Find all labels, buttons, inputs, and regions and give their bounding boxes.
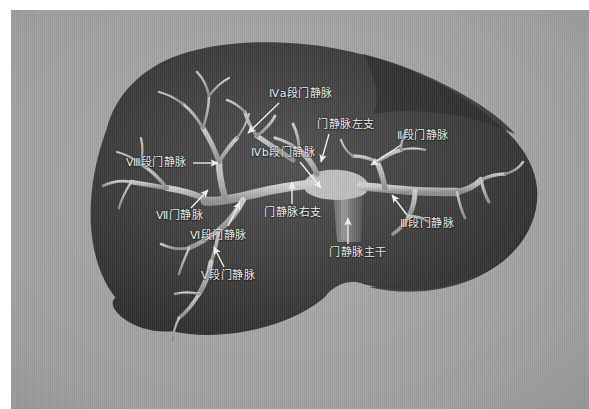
arrow-left-branch <box>321 134 329 162</box>
arrow-seg7 <box>191 190 208 208</box>
label-left-branch: 门静脉左支 <box>317 118 375 131</box>
label-seg5: Ⅴ段门静脉 <box>201 269 255 282</box>
label-seg7: Ⅶ门静脉 <box>156 209 203 222</box>
label-iva: Ⅳa段门静脉 <box>269 87 333 100</box>
label-right-branch: 门静脉右支 <box>264 206 322 219</box>
illustration-stage: Ⅳa段门静脉门静脉左支Ⅱ段门静脉Ⅳb段门静脉Ⅷ段门静脉Ⅶ门静脉门静脉右支Ⅵ段门静… <box>11 10 589 409</box>
label-seg8: Ⅷ段门静脉 <box>126 156 187 169</box>
arrow-seg6 <box>228 202 240 226</box>
label-main-trunk: 门静脉主干 <box>329 246 387 259</box>
arrow-seg5 <box>214 247 224 267</box>
label-seg3: Ⅲ段门静脉 <box>400 217 454 230</box>
figure-page: Ⅳa段门静脉门静脉左支Ⅱ段门静脉Ⅳb段门静脉Ⅷ段门静脉Ⅶ门静脉门静脉右支Ⅵ段门静… <box>0 0 589 409</box>
label-seg2: Ⅱ段门静脉 <box>397 129 449 142</box>
label-seg6: Ⅵ段门静脉 <box>190 229 247 242</box>
arrow-iva <box>248 103 279 133</box>
arrow-seg2 <box>371 145 401 165</box>
label-ivb: Ⅳb段门静脉 <box>251 146 315 159</box>
illustration-plate: Ⅳa段门静脉门静脉左支Ⅱ段门静脉Ⅳb段门静脉Ⅷ段门静脉Ⅶ门静脉门静脉右支Ⅵ段门静… <box>11 10 589 409</box>
arrow-seg3 <box>392 195 407 215</box>
arrow-ivb <box>300 162 321 188</box>
